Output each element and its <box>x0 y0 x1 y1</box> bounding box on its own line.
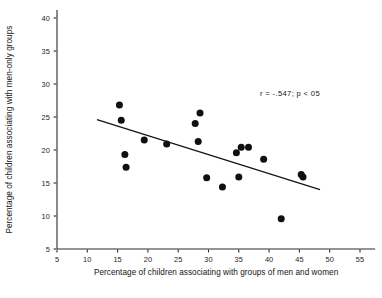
data-point <box>118 117 125 124</box>
scatter-plot-figure: 510152025303540 510152025303540455055 r … <box>0 0 382 298</box>
x-tick-label: 55 <box>356 255 364 264</box>
y-tick-label: 35 <box>42 47 50 56</box>
data-points-group <box>116 102 307 223</box>
y-tick-label: 10 <box>42 212 50 221</box>
x-tick-label: 45 <box>295 255 303 264</box>
data-point <box>192 120 199 127</box>
x-tick-label: 15 <box>113 255 121 264</box>
data-point <box>116 102 123 109</box>
x-tick-label: 25 <box>174 255 182 264</box>
x-tick-label: 30 <box>204 255 212 264</box>
data-point <box>141 137 148 144</box>
x-tick-label: 35 <box>235 255 243 264</box>
data-point <box>300 174 307 181</box>
data-point <box>197 110 204 117</box>
data-point <box>203 174 210 181</box>
y-tick-label: 40 <box>42 14 50 23</box>
y-tick-label: 15 <box>42 179 50 188</box>
data-point <box>195 138 202 145</box>
data-point <box>235 174 242 181</box>
x-tick-label: 20 <box>144 255 152 264</box>
x-tick-label: 50 <box>325 255 333 264</box>
y-tick-label: 20 <box>42 146 50 155</box>
x-tick-label: 10 <box>83 255 91 264</box>
data-point <box>260 156 267 163</box>
y-axis-title: Percentage of children associating with … <box>6 26 15 234</box>
x-axis-title: Percentage of children associating with … <box>94 268 339 277</box>
data-point <box>219 183 226 190</box>
y-tick-label: 25 <box>42 113 50 122</box>
y-tick-label: 30 <box>42 80 50 89</box>
data-point <box>233 149 240 156</box>
x-axis: 510152025303540455055 <box>55 249 375 264</box>
x-tick-label: 40 <box>265 255 273 264</box>
data-point <box>123 164 130 171</box>
data-point <box>238 144 245 151</box>
data-point <box>121 151 128 158</box>
data-point <box>245 144 252 151</box>
correlation-annotation: r = -.547; p < 05 <box>260 89 320 98</box>
scatter-plot-svg: 510152025303540 510152025303540455055 r … <box>0 0 382 298</box>
data-point <box>278 215 285 222</box>
y-tick-label: 5 <box>46 245 50 254</box>
y-axis: 510152025303540 <box>42 10 57 254</box>
x-tick-label: 5 <box>55 255 59 264</box>
